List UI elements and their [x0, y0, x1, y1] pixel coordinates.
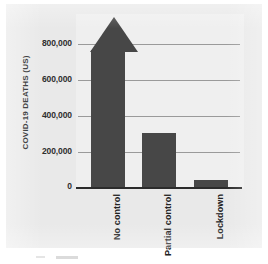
y-tick-0-wrap: 0: [24, 187, 72, 188]
x-axis-line: [76, 187, 242, 189]
chart-figure: 800,000 600,000 400,000 200,000 0 COVID-…: [0, 0, 268, 264]
scan-artifact-mark-1: [36, 256, 45, 258]
y-tick-400000-wrap: 400,000: [24, 116, 72, 117]
scan-artifact-mark-2: [56, 256, 78, 259]
x-category-label-lockdown: Lockdown: [215, 194, 225, 264]
y-tick-200000-wrap: 200,000: [24, 152, 72, 153]
y-tick-600000-wrap: 600,000: [24, 80, 72, 81]
y-tick-label-0: 0: [67, 181, 72, 191]
bar-lockdown: [194, 180, 228, 187]
arrow-shaft: [91, 50, 125, 187]
bar-partial-control: [142, 133, 176, 187]
y-tick-label-400000: 400,000: [42, 110, 72, 120]
y-tick-label-800000: 800,000: [42, 38, 72, 48]
x-category-label-partial-control: Partial control: [163, 194, 173, 264]
y-tick-label-600000: 600,000: [42, 74, 72, 84]
y-tick-800000-wrap: 800,000: [24, 44, 72, 45]
y-tick-label-200000: 200,000: [42, 146, 72, 156]
y-axis-title: COVID-19 DEATHS (US): [21, 48, 30, 158]
chart-panel: 800,000 600,000 400,000 200,000 0 COVID-…: [6, 4, 262, 248]
x-category-label-no-control: No control: [112, 194, 122, 264]
arrow-head-icon: [90, 17, 138, 52]
